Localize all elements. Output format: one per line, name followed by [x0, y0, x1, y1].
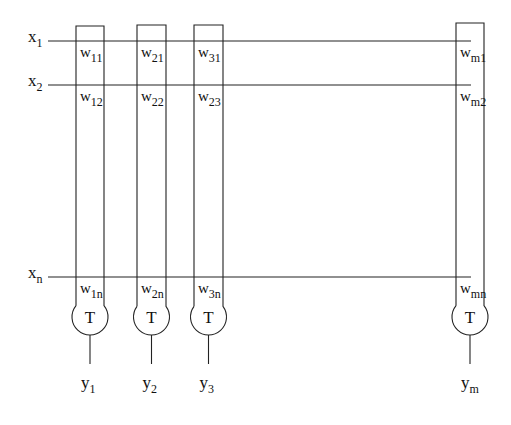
weight-label-w31: w31 [198, 44, 221, 65]
threshold-unit-label-m: T [465, 308, 476, 327]
output-label-y2: y2 [143, 373, 158, 396]
weight-label-w12: w12 [80, 88, 103, 109]
threshold-unit-label-2: T [146, 308, 157, 327]
weight-label-w3n: w3n [198, 280, 221, 301]
diagram-canvas: Ty1w11w12w1nTy2w21w22w2nTy3w31w23w3nTymw… [0, 0, 511, 425]
neural-network-diagram: Ty1w11w12w1nTy2w21w22w2nTy3w31w23w3nTymw… [0, 0, 511, 425]
input-label-xn: xn [28, 263, 43, 286]
threshold-unit-label-3: T [203, 308, 214, 327]
weight-label-w21: w21 [141, 44, 164, 65]
weight-label-w1n: w1n [80, 280, 103, 301]
weight-label-w23: w23 [198, 88, 221, 109]
output-label-y3: y3 [200, 373, 215, 396]
weight-label-w2n: w2n [141, 280, 164, 301]
output-label-y1: y1 [81, 373, 96, 396]
weight-label-w11: w11 [80, 44, 102, 65]
input-label-x2: x2 [28, 71, 43, 94]
threshold-unit-label-1: T [85, 308, 96, 327]
weight-label-wm1: wm1 [460, 44, 486, 65]
weight-label-wmn: wmn [460, 280, 486, 301]
weight-label-w22: w22 [141, 88, 164, 109]
output-label-ym: ym [461, 373, 480, 396]
weight-label-wm2: wm2 [460, 88, 486, 109]
input-label-x1: x1 [28, 27, 43, 50]
